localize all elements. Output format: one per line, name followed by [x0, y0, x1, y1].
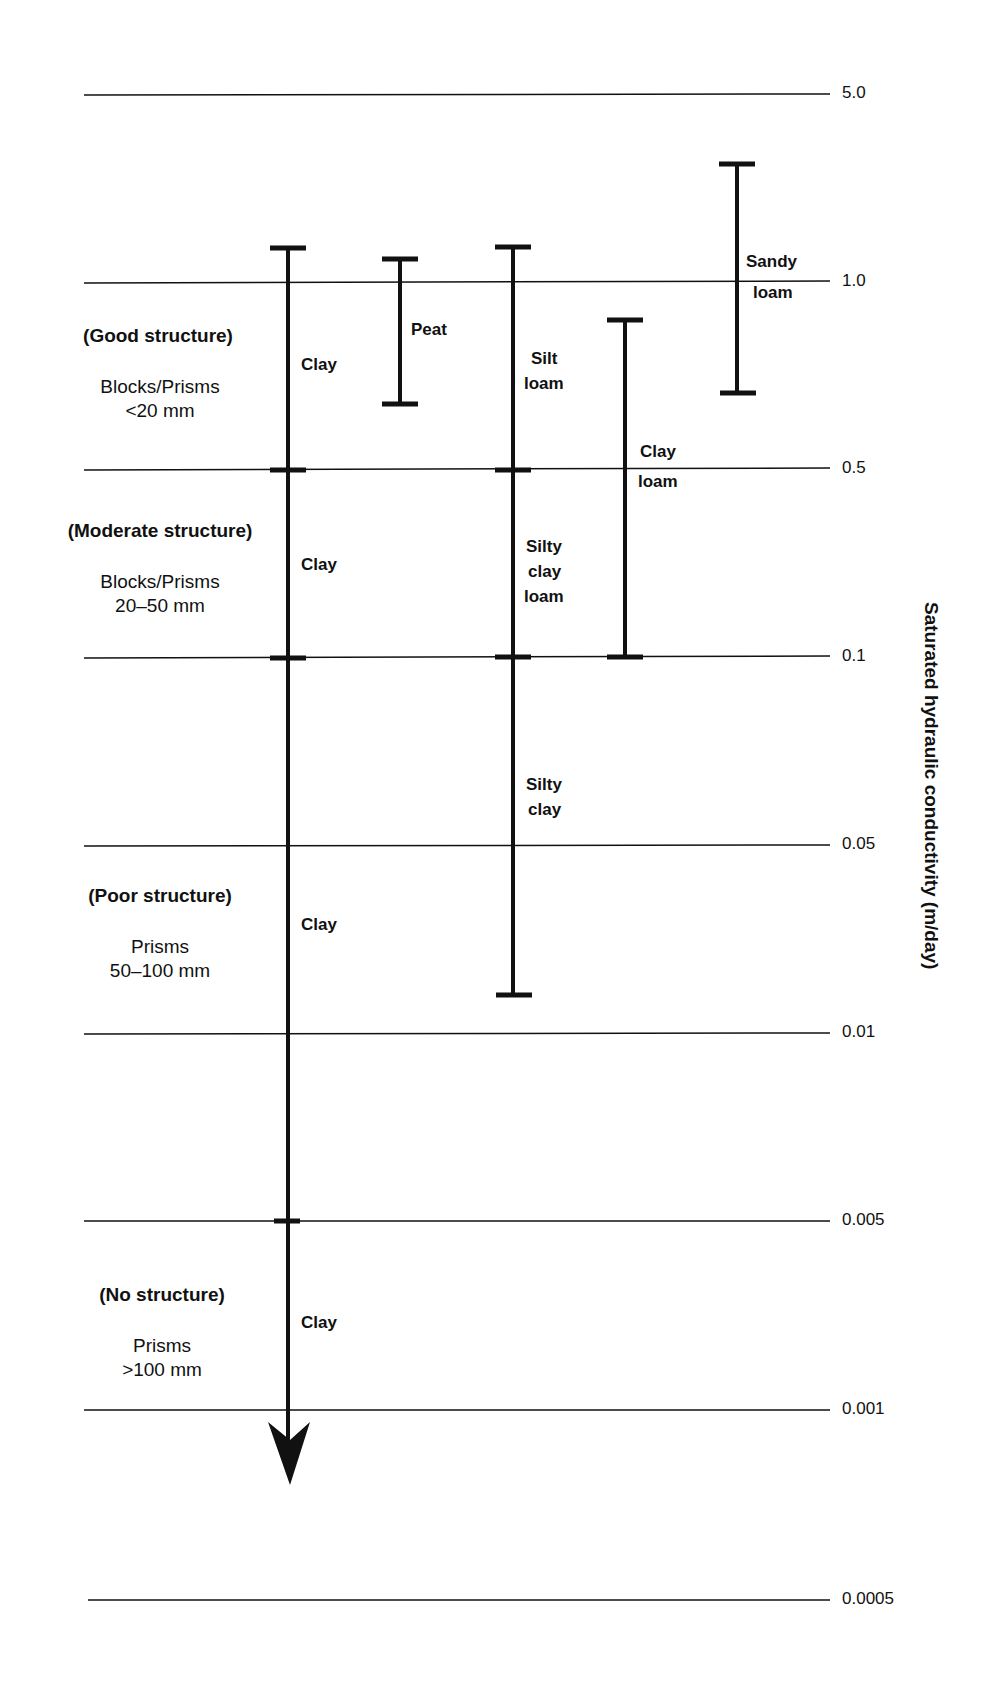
clay-range-bar	[270, 248, 306, 1440]
clay-label-poor: Clay	[301, 913, 337, 937]
tick-label-0-0005: 0.0005	[842, 1589, 894, 1609]
poor-structure-desc2: 50–100 mm	[110, 959, 210, 983]
good-structure-desc1: Blocks/Prisms	[100, 375, 219, 399]
silty-clay-label-line1: Silty	[526, 773, 562, 797]
poor-structure-title: (Poor structure)	[88, 885, 232, 907]
tick-label-0-005: 0.005	[842, 1210, 885, 1230]
tick-label-1: 1.0	[842, 271, 866, 291]
conductivity-diagram	[0, 0, 988, 1686]
y-axis-title: Saturated hydraulic conductivity (m/day)	[920, 602, 942, 969]
tick-label-0-05: 0.05	[842, 834, 875, 854]
sandy-loam-label-line2: loam	[753, 281, 793, 305]
no-structure-desc1: Prisms	[133, 1334, 191, 1358]
tick-label-0-5: 0.5	[842, 458, 866, 478]
silty-clay-loam-label-line1: Silty	[526, 535, 562, 559]
good-structure-desc2: <20 mm	[125, 399, 194, 423]
poor-structure-desc1: Prisms	[131, 935, 189, 959]
silty-clay-loam-label-line3: loam	[524, 585, 564, 609]
clay-loam-label-line1: Clay	[640, 440, 676, 464]
silty-clay-loam-label-line2: clay	[528, 560, 561, 584]
clay-label-moderate: Clay	[301, 553, 337, 577]
tick-label-0-01: 0.01	[842, 1022, 875, 1042]
silt-loam-label-line2: loam	[524, 372, 564, 396]
clay-loam-label-line2: loam	[638, 470, 678, 494]
tick-label-0-001: 0.001	[842, 1399, 885, 1419]
moderate-structure-desc2: 20–50 mm	[115, 594, 205, 618]
peat-label: Peat	[411, 318, 447, 342]
good-structure-title: (Good structure)	[83, 325, 233, 347]
tick-label-5: 5.0	[842, 83, 866, 103]
silt-range-bar	[495, 247, 532, 995]
silty-clay-label-line2: clay	[528, 798, 561, 822]
tick-label-0-1: 0.1	[842, 646, 866, 666]
silt-loam-label-line1: Silt	[531, 347, 557, 371]
moderate-structure-desc1: Blocks/Prisms	[100, 570, 219, 594]
clay-label-good: Clay	[301, 353, 337, 377]
sandy-loam-label-line1: Sandy	[746, 250, 797, 274]
no-structure-desc2: >100 mm	[122, 1358, 202, 1382]
clay-label-none: Clay	[301, 1311, 337, 1335]
sandy-loam-range-bar	[719, 164, 756, 393]
moderate-structure-title: (Moderate structure)	[68, 520, 253, 542]
no-structure-title: (No structure)	[99, 1284, 225, 1306]
